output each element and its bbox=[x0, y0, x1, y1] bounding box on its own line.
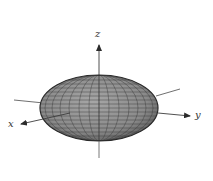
y-axis-label: y bbox=[195, 110, 201, 120]
x-axis-negative-line bbox=[14, 100, 44, 103]
x-axis-label: x bbox=[8, 119, 14, 129]
z-axis-label: z bbox=[95, 29, 100, 39]
y-axis-line bbox=[158, 113, 190, 116]
ellipsoid-surface bbox=[30, 75, 170, 141]
y-axis-negative-line bbox=[156, 89, 180, 96]
ellipsoid-figure: z y x bbox=[0, 0, 213, 181]
ellipsoid-diagram bbox=[0, 0, 213, 181]
